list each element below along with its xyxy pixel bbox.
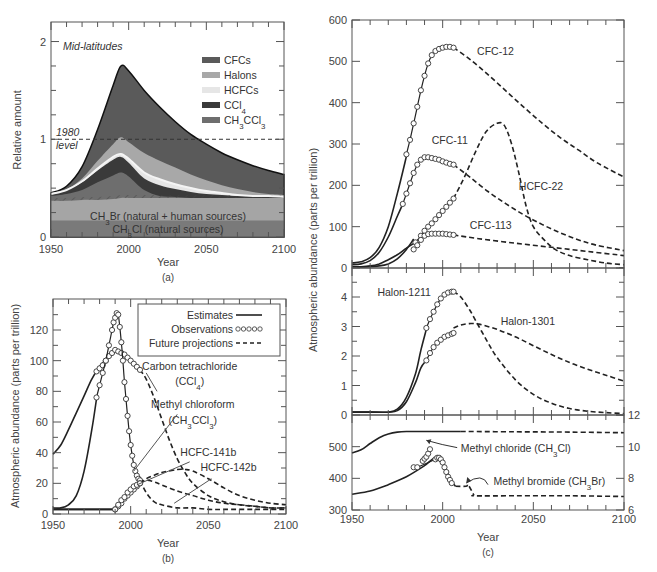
observation-marker — [123, 396, 128, 401]
legend-swatch — [202, 117, 220, 123]
observation-marker — [400, 201, 405, 206]
observation-marker — [125, 413, 130, 418]
observation-marker — [411, 170, 416, 175]
observation-marker — [128, 442, 133, 447]
chart-title: Mid-latitudes — [63, 40, 123, 52]
annotation-methyl-bromide: Methyl bromide (CH3Br) — [493, 475, 605, 492]
observation-marker — [103, 358, 108, 363]
y-tick-label: 2 — [40, 36, 46, 48]
leader-line — [134, 414, 177, 471]
y-tick-label-right: 12 — [628, 409, 640, 421]
y-axis-title: Relative amount — [11, 90, 23, 170]
x-tick-label: 2000 — [430, 513, 454, 525]
legend-label: CFCs — [224, 54, 251, 66]
annotation-hcfc-22: HCFC-22 — [519, 180, 563, 192]
leader-line — [137, 462, 190, 485]
legend-label: CH3CCl3 — [224, 114, 266, 131]
halon-1211-projection-line — [454, 292, 625, 414]
y-tick-label: 200 — [329, 179, 347, 191]
figure-canvas: 1980level1950200020502100012Mid-latitude… — [0, 0, 657, 572]
x-axis-title: Year — [477, 531, 500, 543]
halon-1211-estimates-line — [352, 329, 426, 412]
observation-marker — [415, 243, 420, 248]
legend-label: Halons — [224, 69, 257, 81]
x-tick-label: 2050 — [521, 513, 545, 525]
carbon-tetrachloride-ccl4-projection-line — [140, 370, 286, 508]
observation-marker — [424, 325, 429, 330]
x-tick-label: 2000 — [116, 243, 140, 255]
methyl-chloride-ch3cl-projection-line — [461, 432, 624, 433]
y-tick-label: 120 — [30, 324, 48, 336]
legend-label: Estimates — [187, 309, 233, 321]
observation-marker — [404, 152, 409, 157]
observation-marker — [120, 358, 125, 363]
panel-c-multi-panel-line-chart: 0100200300400500600CFC-12CFC-11HCFC-22CF… — [307, 14, 640, 558]
x-tick-label: 1950 — [41, 519, 65, 531]
observation-marker — [117, 324, 122, 329]
observation-marker — [451, 330, 456, 335]
observation-marker — [449, 480, 454, 485]
observation-marker — [418, 88, 423, 93]
y-tick-label-left: 400 — [329, 472, 347, 484]
observation-marker — [451, 196, 456, 201]
carbon-tetrachloride-ccl4-estimates-line — [53, 350, 115, 454]
observation-marker — [127, 429, 132, 434]
observation-marker — [100, 370, 105, 375]
hcfc-142b-projection-line — [140, 480, 286, 508]
observation-marker — [431, 309, 436, 314]
legend-label: Future projections — [149, 337, 233, 349]
y-tick-label: 40 — [36, 447, 48, 459]
observation-marker — [404, 191, 409, 196]
cfc-11-projection-line — [454, 165, 625, 251]
methyl-chloride-ch3cl-estimates-line — [352, 431, 461, 453]
observation-marker — [131, 462, 136, 467]
y-tick-label-left: 500 — [329, 441, 347, 453]
observation-marker — [451, 289, 456, 294]
y-tick-label: 0 — [42, 508, 48, 520]
y-tick-label: 20 — [36, 477, 48, 489]
legend-label: Observations — [171, 323, 233, 335]
observation-marker — [427, 350, 432, 355]
legend-circle-marker — [258, 327, 262, 331]
annotation-halon-1211: Halon-1211 — [377, 286, 431, 298]
observation-marker — [106, 343, 111, 348]
leader-line — [146, 373, 157, 391]
y-tick-label-right: 8 — [628, 472, 634, 484]
annotation-hcfc-141b: HCFC-141b — [180, 446, 236, 458]
annotation-halon-1301: Halon-1301 — [501, 315, 555, 327]
observation-marker — [435, 302, 440, 307]
annotation-cfc-113: CFC-113 — [470, 219, 512, 231]
annotation-methyl-chloroform: Methyl chloroform — [151, 398, 235, 410]
y-tick-label: 400 — [329, 97, 347, 109]
top-panel-frame — [352, 20, 624, 268]
annotation-carbon-tetrachloride: Carbon tetrachloride — [142, 360, 237, 372]
observation-marker — [411, 121, 416, 126]
annotation-methyl-chloride: Methyl chloride (CH3Cl) — [461, 442, 571, 459]
panel-caption: (c) — [482, 547, 494, 558]
legend-swatch — [202, 72, 220, 78]
annotation-hcfc-142b: HCFC-142b — [201, 461, 257, 473]
hcfc-22-projection-line — [454, 123, 625, 265]
y-tick-label: 0 — [341, 409, 347, 421]
observation-marker — [130, 453, 135, 458]
observation-marker — [415, 104, 420, 109]
legend-swatch — [202, 102, 220, 108]
y-tick-label: 300 — [329, 138, 347, 150]
y-tick-label-right: 10 — [628, 441, 640, 453]
observation-marker — [422, 73, 427, 78]
reference-label: level — [56, 139, 78, 151]
cfc-12-estimates-line — [352, 156, 406, 263]
observation-marker — [97, 383, 102, 388]
x-tick-label: 2000 — [118, 519, 142, 531]
observation-marker — [415, 465, 420, 470]
y-tick-label: 100 — [30, 355, 48, 367]
observation-marker — [119, 340, 124, 345]
y-tick-label: 4 — [341, 291, 347, 303]
y-tick-label-right: 6 — [628, 504, 634, 516]
reference-label: 1980 — [56, 126, 80, 138]
observation-marker — [424, 358, 429, 363]
panel-caption: (a) — [162, 272, 174, 283]
y-axis-title: Atmospheric abundance (parts per trillio… — [9, 304, 21, 508]
x-tick-label: 2100 — [274, 519, 298, 531]
observation-marker — [122, 380, 127, 385]
